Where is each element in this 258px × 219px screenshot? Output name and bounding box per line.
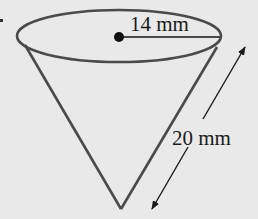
slant-height-label: 20 mm	[172, 128, 231, 149]
center-point	[114, 32, 124, 42]
cone-diagram: 14 mm 20 mm	[0, 0, 258, 219]
slant-arrow-down	[152, 147, 188, 209]
cone-figure	[0, 0, 258, 219]
stray-mark	[0, 19, 3, 22]
radius-label: 14 mm	[130, 14, 189, 35]
cone-left-side	[25, 45, 121, 209]
